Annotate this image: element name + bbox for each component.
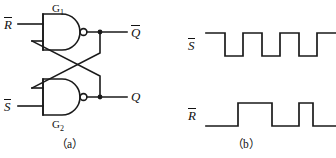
gate-label-g2: G2 bbox=[52, 119, 64, 133]
g2-gate-body bbox=[43, 79, 80, 115]
sr-latch-schematic bbox=[0, 0, 168, 158]
timing-diagram bbox=[168, 0, 336, 158]
figure-container: R S Q Q G1 G2 （a） S R （b） bbox=[0, 0, 336, 158]
input-label-rbar: R bbox=[4, 17, 12, 31]
waveform-sbar-trace bbox=[206, 33, 336, 56]
waveform-label-sbar: S bbox=[188, 38, 195, 52]
input-label-sbar: S bbox=[4, 99, 11, 113]
output-label-q: Q bbox=[131, 90, 140, 103]
output-label-qbar: Q bbox=[131, 25, 140, 39]
caption-panel-b: （b） bbox=[232, 139, 260, 151]
caption-panel-a: （a） bbox=[56, 139, 83, 151]
g1-gate-body bbox=[43, 14, 80, 50]
waveform-rbar-trace bbox=[206, 103, 336, 126]
g2-inversion-bubble bbox=[80, 94, 87, 101]
gate-label-g1: G1 bbox=[52, 3, 64, 17]
g1-inversion-bubble bbox=[80, 29, 87, 36]
waveform-label-rbar: R bbox=[188, 108, 196, 122]
